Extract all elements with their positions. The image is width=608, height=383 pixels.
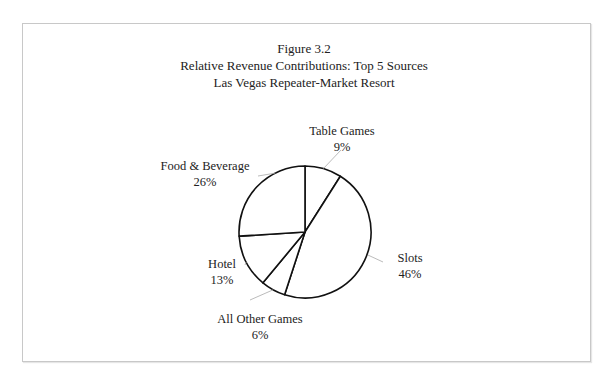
leader-slots [368,255,383,262]
label-value: 26% [150,174,260,190]
label-name: Table Games [302,123,382,139]
label-value: 13% [202,272,242,288]
label-table-games: Table Games 9% [302,123,382,155]
label-all-other-games: All Other Games 6% [200,311,320,343]
label-value: 9% [302,139,382,155]
leader-hotel [245,262,246,265]
leader-all-other-games [250,290,273,300]
label-hotel: Hotel 13% [202,256,242,288]
label-slots: Slots 46% [385,250,435,282]
label-food-beverage: Food & Beverage 26% [150,158,260,190]
label-value: 6% [200,327,320,343]
label-name: Hotel [202,256,242,272]
label-name: Food & Beverage [150,158,260,174]
label-value: 46% [385,266,435,282]
label-name: Slots [385,250,435,266]
label-name: All Other Games [200,311,320,327]
